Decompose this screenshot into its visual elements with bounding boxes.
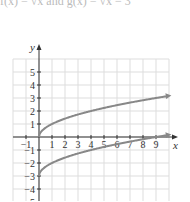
svg-text:3: 3 xyxy=(76,139,81,150)
svg-text:−5: −5 xyxy=(24,197,35,202)
curve-f xyxy=(39,96,166,137)
svg-text:2: 2 xyxy=(63,139,68,150)
tick-labels: xy−112345678954321−1−2−3−4−5 xyxy=(21,41,178,201)
svg-text:8: 8 xyxy=(141,139,146,150)
svg-text:−3: −3 xyxy=(24,171,35,182)
svg-text:4: 4 xyxy=(30,80,35,91)
svg-text:1: 1 xyxy=(50,139,55,150)
grid-lines xyxy=(13,59,169,201)
svg-text:−2: −2 xyxy=(24,158,35,169)
svg-text:4: 4 xyxy=(89,139,94,150)
svg-text:−1: −1 xyxy=(24,145,35,156)
svg-text:3: 3 xyxy=(30,93,35,104)
axes xyxy=(13,44,178,201)
curves xyxy=(39,93,171,176)
svg-text:5: 5 xyxy=(30,67,35,78)
svg-text:2: 2 xyxy=(30,106,35,117)
svg-text:−4: −4 xyxy=(24,184,35,195)
svg-text:1: 1 xyxy=(30,119,35,130)
svg-text:x: x xyxy=(172,139,178,151)
function-graph: xy−112345678954321−1−2−3−4−5 xyxy=(0,0,190,201)
svg-text:9: 9 xyxy=(154,139,159,150)
svg-text:y: y xyxy=(29,41,35,53)
